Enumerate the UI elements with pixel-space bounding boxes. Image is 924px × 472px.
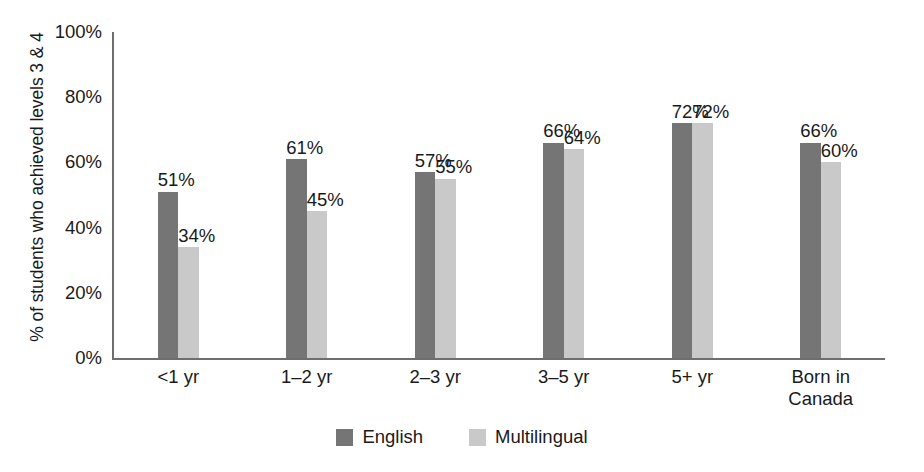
- y-tick-label: 40%: [40, 219, 102, 238]
- plot-area: 51% 34% 61% 45%: [112, 32, 885, 358]
- bar-pair: 51% 34%: [158, 32, 199, 358]
- legend-label: Multilingual: [495, 428, 588, 447]
- bar-pair: 72% 72%: [672, 32, 713, 358]
- legend-item-english[interactable]: English: [336, 428, 423, 447]
- x-tick-label: <1 yr: [114, 366, 243, 410]
- bar-value-label: 60%: [821, 142, 858, 161]
- bar-english[interactable]: 57%: [415, 172, 436, 358]
- y-tick-label: 60%: [40, 153, 102, 172]
- bar-group: 51% 34%: [114, 32, 243, 358]
- bar-multilingual[interactable]: 72%: [692, 123, 713, 358]
- x-tick-label: 2–3 yr: [371, 366, 500, 410]
- bar-pair: 57% 55%: [415, 32, 456, 358]
- bar-groups: 51% 34% 61% 45%: [114, 32, 885, 358]
- bar-english[interactable]: 51%: [158, 192, 179, 358]
- bar-group: 61% 45%: [243, 32, 372, 358]
- bar-english[interactable]: 66%: [800, 143, 821, 358]
- y-tick-label: 0%: [40, 349, 102, 368]
- bar-pair: 66% 64%: [543, 32, 584, 358]
- bar-value-label: 45%: [307, 191, 344, 210]
- bar-group: 57% 55%: [371, 32, 500, 358]
- x-tick-label: 5+ yr: [628, 366, 757, 410]
- bar-multilingual[interactable]: 64%: [564, 149, 585, 358]
- y-tick-label: 100%: [40, 23, 102, 42]
- x-tick-label: Born in Canada: [757, 366, 886, 410]
- bar-english[interactable]: 72%: [672, 123, 693, 358]
- legend-swatch-icon: [336, 429, 353, 446]
- bar-pair: 66% 60%: [800, 32, 841, 358]
- bar-english[interactable]: 66%: [543, 143, 564, 358]
- x-tick-label: 3–5 yr: [500, 366, 629, 410]
- bar-value-label: 34%: [178, 227, 215, 246]
- bar-group: 72% 72%: [628, 32, 757, 358]
- chart-legend: English Multilingual: [0, 428, 924, 447]
- x-axis-tick-labels: <1 yr 1–2 yr 2–3 yr 3–5 yr 5+ yr Born in…: [114, 366, 885, 410]
- bar-group: 66% 64%: [500, 32, 629, 358]
- bar-value-label: 66%: [800, 122, 837, 141]
- legend-swatch-icon: [469, 429, 486, 446]
- y-tick-label: 80%: [40, 88, 102, 107]
- x-tick-label: 1–2 yr: [243, 366, 372, 410]
- bar-value-label: 61%: [286, 139, 323, 158]
- bar-group: 66% 60%: [757, 32, 886, 358]
- bar-value-label: 51%: [158, 171, 195, 190]
- bar-pair: 61% 45%: [286, 32, 327, 358]
- bar-multilingual[interactable]: 60%: [821, 162, 842, 358]
- bar-value-label: 64%: [564, 129, 601, 148]
- bar-multilingual[interactable]: 55%: [435, 179, 456, 358]
- y-axis-tick-labels: 100% 80% 60% 40% 20% 0%: [40, 0, 102, 472]
- bar-value-label: 55%: [435, 158, 472, 177]
- bar-chart: % of students who achieved levels 3 & 4 …: [0, 0, 924, 472]
- x-axis-line: [112, 358, 885, 360]
- bar-english[interactable]: 61%: [286, 159, 307, 358]
- legend-label: English: [362, 428, 423, 447]
- y-tick-label: 20%: [40, 284, 102, 303]
- legend-item-multilingual[interactable]: Multilingual: [469, 428, 588, 447]
- bar-multilingual[interactable]: 45%: [307, 211, 328, 358]
- bar-value-label: 72%: [692, 103, 729, 122]
- bar-multilingual[interactable]: 34%: [178, 247, 199, 358]
